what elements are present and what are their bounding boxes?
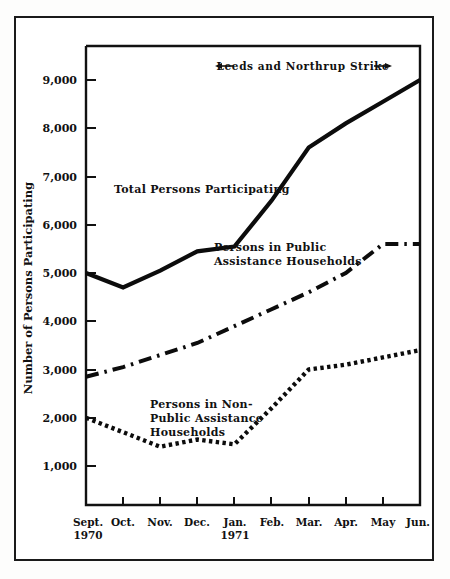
x-tick-sublabel-1971: 1971 bbox=[220, 529, 249, 541]
y-tick-label: 5,000 bbox=[43, 267, 78, 280]
x-tick-label-oct: Oct. bbox=[111, 516, 135, 528]
series-total-label: Total Persons Participating bbox=[114, 183, 290, 196]
series-non-public-assistance-label-line1: Persons in Non- bbox=[150, 398, 253, 411]
line-chart: Number of Persons Participating 1,000 2,… bbox=[16, 18, 432, 559]
strike-annotation: Leeds and Northrup Strike bbox=[215, 60, 392, 72]
series-non-public-assistance-line bbox=[86, 350, 420, 447]
plot-axes bbox=[86, 46, 420, 505]
y-tick-label: 2,000 bbox=[43, 412, 78, 425]
x-tick-label-jan: Jan. bbox=[222, 516, 246, 528]
y-tick-label: 1,000 bbox=[43, 460, 78, 473]
y-tick-label: 3,000 bbox=[43, 364, 78, 377]
y-tick-label: 7,000 bbox=[43, 171, 78, 184]
x-tick-label-feb: Feb. bbox=[260, 516, 285, 528]
y-tick-labels: 1,000 2,000 3,000 4,000 5,000 6,000 7,00… bbox=[43, 74, 78, 473]
chart-page: Number of Persons Participating 1,000 2,… bbox=[0, 0, 450, 579]
x-tick-label-sept: Sept. bbox=[73, 516, 103, 528]
series-public-assistance-label-line1: Persons in Public bbox=[214, 241, 326, 254]
x-tick-label-may: May bbox=[371, 516, 396, 528]
strike-label: Leeds and Northrup Strike bbox=[217, 60, 390, 72]
x-tick-sublabel-1970: 1970 bbox=[73, 529, 102, 541]
y-tick-label: 8,000 bbox=[43, 122, 78, 135]
y-axis-title: Number of Persons Participating bbox=[21, 182, 35, 394]
series-public-assistance-label-line2: Assistance Households bbox=[213, 255, 362, 268]
x-tick-label-apr: Apr. bbox=[333, 516, 358, 528]
y-tick-label: 4,000 bbox=[43, 315, 78, 328]
x-tick-label-nov: Nov. bbox=[147, 516, 172, 528]
x-tick-label-dec: Dec. bbox=[184, 516, 210, 528]
series-non-public-assistance-label-line2: Public Assistance bbox=[150, 412, 263, 425]
y-tick-label: 6,000 bbox=[43, 219, 78, 232]
y-tick-label: 9,000 bbox=[43, 74, 78, 87]
series-non-public-assistance-label-line3: Households bbox=[150, 426, 225, 439]
chart-frame-border: Number of Persons Participating 1,000 2,… bbox=[14, 16, 434, 561]
x-tick-labels: Sept. Oct. Nov. Dec. Jan. Feb. Mar. Apr.… bbox=[73, 516, 430, 541]
x-tick-label-jun: Jun. bbox=[405, 516, 430, 528]
x-tick-label-mar: Mar. bbox=[296, 516, 323, 528]
